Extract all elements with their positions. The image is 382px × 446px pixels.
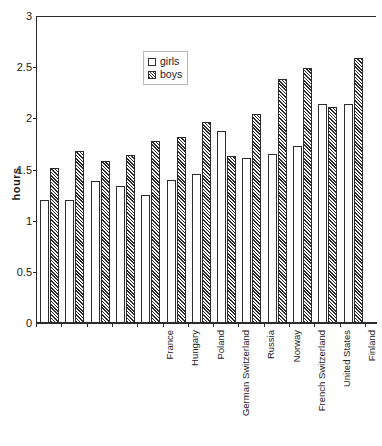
x-tick-mark bbox=[340, 323, 341, 327]
bar-boys[interactable] bbox=[278, 79, 287, 323]
x-tick-mark bbox=[289, 323, 290, 327]
bar-group bbox=[192, 16, 212, 323]
x-tick-mark bbox=[213, 323, 214, 327]
y-tick-label: 3 bbox=[6, 11, 32, 21]
bar-girls[interactable] bbox=[167, 180, 176, 323]
x-tick-mark bbox=[264, 323, 265, 327]
bar-group bbox=[116, 16, 136, 323]
bars-layer bbox=[36, 16, 376, 323]
bar-girls[interactable] bbox=[268, 154, 277, 323]
bar-boys[interactable] bbox=[75, 151, 84, 323]
bar-boys[interactable] bbox=[151, 141, 160, 323]
bar-group bbox=[293, 16, 313, 323]
bar-girls[interactable] bbox=[40, 200, 49, 323]
bar-girls[interactable] bbox=[293, 146, 302, 323]
bar-girls[interactable] bbox=[344, 104, 353, 323]
x-tick-mark bbox=[365, 323, 366, 327]
bar-girls[interactable] bbox=[91, 181, 100, 323]
y-tick-mark bbox=[33, 221, 37, 222]
bar-group bbox=[91, 16, 111, 323]
x-axis-label: French Switzerland bbox=[316, 330, 327, 440]
x-axis-label: France bbox=[164, 330, 175, 440]
legend-item[interactable]: boys bbox=[148, 68, 182, 81]
y-tick-mark bbox=[33, 118, 37, 119]
bar-girls[interactable] bbox=[242, 158, 251, 323]
bar-girls[interactable] bbox=[141, 195, 150, 323]
x-tick-mark bbox=[61, 323, 62, 327]
bar-group bbox=[242, 16, 262, 323]
y-tick-mark bbox=[33, 67, 37, 68]
bar-girls[interactable] bbox=[318, 104, 327, 323]
x-tick-mark bbox=[314, 323, 315, 327]
x-tick-mark bbox=[188, 323, 189, 327]
y-tick-label: 1.5 bbox=[6, 165, 32, 175]
x-tick-mark bbox=[163, 323, 164, 327]
bar-group bbox=[217, 16, 237, 323]
chart-legend: girlsboys bbox=[143, 51, 188, 85]
x-axis-category-labels: FranceHungaryPolandGerman SwitzerlandRus… bbox=[36, 330, 376, 446]
y-tick-label: 1 bbox=[6, 216, 32, 226]
x-axis-label: Russia bbox=[265, 330, 276, 440]
x-tick-mark bbox=[137, 323, 138, 327]
bar-chart: hours 00.511.522.53 FranceHungaryPolandG… bbox=[0, 0, 382, 446]
bar-boys[interactable] bbox=[227, 156, 236, 323]
bar-boys[interactable] bbox=[303, 68, 312, 323]
bar-girls[interactable] bbox=[192, 174, 201, 323]
bar-boys[interactable] bbox=[354, 58, 363, 323]
bar-boys[interactable] bbox=[50, 168, 59, 323]
bar-group bbox=[65, 16, 85, 323]
x-axis-label: United States bbox=[341, 330, 352, 440]
bar-group bbox=[318, 16, 338, 323]
y-tick-label: 0.5 bbox=[6, 267, 32, 277]
bar-group bbox=[40, 16, 60, 323]
bar-boys[interactable] bbox=[328, 107, 337, 323]
x-axis-label: Poland bbox=[215, 330, 226, 440]
legend-item[interactable]: girls bbox=[148, 55, 182, 68]
bar-boys[interactable] bbox=[126, 155, 135, 323]
bar-boys[interactable] bbox=[252, 114, 261, 323]
y-tick-label: 0 bbox=[6, 318, 32, 328]
x-axis-label: Finland bbox=[366, 330, 377, 440]
x-axis-label: Norway bbox=[291, 330, 302, 440]
bar-boys[interactable] bbox=[177, 137, 186, 323]
legend-swatch-girls bbox=[148, 58, 156, 66]
x-tick-mark bbox=[87, 323, 88, 327]
bar-girls[interactable] bbox=[65, 200, 74, 323]
y-tick-label: 2 bbox=[6, 113, 32, 123]
x-tick-mark bbox=[238, 323, 239, 327]
y-tick-label: 2.5 bbox=[6, 62, 32, 72]
bar-group bbox=[268, 16, 288, 323]
y-axis-tick-labels: 00.511.522.53 bbox=[4, 0, 32, 446]
bar-group bbox=[344, 16, 364, 323]
legend-label: boys bbox=[160, 69, 182, 80]
x-axis-label: German Switzerland bbox=[240, 330, 251, 440]
x-tick-mark bbox=[112, 323, 113, 327]
x-axis-label: Hungary bbox=[189, 330, 200, 440]
x-tick-mark bbox=[36, 323, 37, 327]
legend-label: girls bbox=[160, 56, 179, 67]
legend-swatch-boys bbox=[148, 71, 156, 79]
bar-boys[interactable] bbox=[202, 122, 211, 323]
y-tick-mark bbox=[33, 272, 37, 273]
bar-girls[interactable] bbox=[217, 131, 226, 323]
bar-boys[interactable] bbox=[101, 161, 110, 323]
bar-girls[interactable] bbox=[116, 186, 125, 323]
y-tick-mark bbox=[33, 170, 37, 171]
